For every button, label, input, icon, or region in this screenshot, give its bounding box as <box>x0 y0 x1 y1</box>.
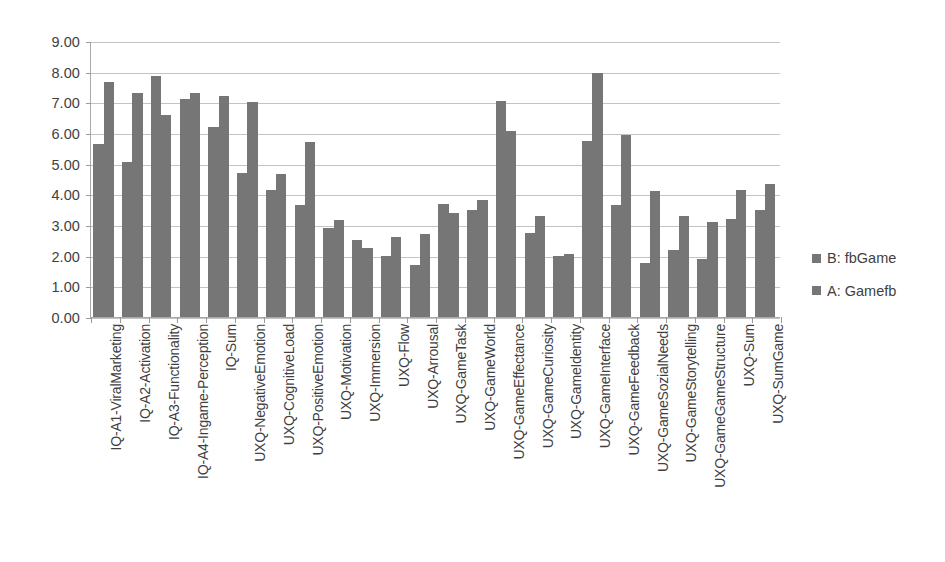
bar[interactable] <box>276 174 286 317</box>
bar[interactable] <box>449 213 459 317</box>
x-tick-mark <box>465 317 466 323</box>
bar[interactable] <box>237 173 247 317</box>
bar[interactable] <box>334 220 344 317</box>
bar[interactable] <box>93 144 103 317</box>
bar[interactable] <box>582 141 592 317</box>
bar-group <box>752 42 781 317</box>
x-tick-label: UXQ-GameStorytelling <box>684 324 698 462</box>
x-tick-label: UXQ-Arrousal <box>426 324 440 409</box>
bar[interactable] <box>592 73 602 317</box>
bar[interactable] <box>132 93 142 317</box>
x-tick-label: UXQ-Sum <box>742 324 756 386</box>
bar[interactable] <box>650 191 660 317</box>
bar[interactable] <box>352 240 362 317</box>
bar[interactable] <box>305 142 315 317</box>
bar[interactable] <box>726 219 736 317</box>
bar[interactable] <box>506 131 516 317</box>
bar[interactable] <box>553 256 563 317</box>
bar[interactable] <box>611 205 621 317</box>
bar-group <box>177 42 206 317</box>
bar[interactable] <box>219 96 229 317</box>
bar-group <box>292 42 321 317</box>
x-axis-labels: IQ-A1-ViralMarketingIQ-A2-ActivationIQ-A… <box>90 324 780 554</box>
x-tick-mark <box>292 317 293 323</box>
bar[interactable] <box>180 99 190 317</box>
bar[interactable] <box>362 248 372 317</box>
bar[interactable] <box>467 210 477 317</box>
bar-group <box>522 42 551 317</box>
bar[interactable] <box>420 234 430 317</box>
legend-item-b[interactable]: B: fbGame <box>812 251 937 266</box>
x-tick-label: UXQ-GameEffectance <box>512 324 526 459</box>
x-tick-label: UXQ-Flow <box>397 324 411 387</box>
bar[interactable] <box>765 184 775 317</box>
bar[interactable] <box>438 204 448 317</box>
x-tick-mark <box>551 317 552 323</box>
bar[interactable] <box>410 265 420 317</box>
x-tick-label: UXQ-NegativeEmotion <box>253 324 267 462</box>
plot-area <box>90 42 780 318</box>
bar[interactable] <box>381 256 391 317</box>
bar[interactable] <box>161 115 171 317</box>
bar[interactable] <box>323 228 333 317</box>
bar-group <box>724 42 753 317</box>
bar[interactable] <box>104 82 114 317</box>
bar[interactable] <box>477 200 487 317</box>
bar[interactable] <box>697 259 707 317</box>
bar[interactable] <box>564 254 574 317</box>
bar[interactable] <box>266 190 276 317</box>
bar[interactable] <box>640 263 650 317</box>
bar[interactable] <box>391 237 401 317</box>
bar[interactable] <box>679 216 689 317</box>
x-tick-mark <box>235 317 236 323</box>
bar[interactable] <box>247 102 257 317</box>
bar[interactable] <box>496 101 506 317</box>
bar[interactable] <box>122 162 132 317</box>
bar-group <box>264 42 293 317</box>
bar[interactable] <box>190 93 200 317</box>
bar[interactable] <box>535 216 545 317</box>
x-tick-mark <box>407 317 408 323</box>
x-tick-mark <box>206 317 207 323</box>
bar[interactable] <box>707 222 717 317</box>
x-tick-label: UXQ-PositiveEmotion <box>311 324 325 456</box>
legend-swatch-icon <box>812 286 821 295</box>
bar-group <box>235 42 264 317</box>
bar[interactable] <box>295 205 305 317</box>
x-tick-label: UXQ-Motivation <box>339 324 353 420</box>
x-tick-mark <box>580 317 581 323</box>
x-tick-label: UXQ-CognitiveLoad <box>282 324 296 445</box>
bar-group <box>580 42 609 317</box>
x-tick-mark <box>120 317 121 323</box>
x-tick-label: UXQ-GameGameStructure <box>713 324 727 488</box>
x-tick-mark <box>724 317 725 323</box>
x-tick-mark <box>149 317 150 323</box>
x-tick-label: UXQ-GameIdentity <box>569 324 583 439</box>
bar-group <box>407 42 436 317</box>
bar[interactable] <box>151 76 161 317</box>
x-tick-mark <box>781 317 782 323</box>
x-tick-label: IQ-A3-Functionality <box>167 324 181 440</box>
x-tick-mark <box>321 317 322 323</box>
bar[interactable] <box>208 127 218 317</box>
x-tick-label: IQ-Sum <box>224 324 238 371</box>
bar-group <box>609 42 638 317</box>
y-axis-labels: 9.008.007.006.005.004.003.002.001.000.00 <box>14 0 80 562</box>
bar-group <box>379 42 408 317</box>
x-tick-mark <box>695 317 696 323</box>
y-tick-label: 6.00 <box>20 127 80 142</box>
legend-item-a[interactable]: A: Gamefb <box>812 284 937 299</box>
y-tick-label: 3.00 <box>20 219 80 234</box>
bar[interactable] <box>668 250 678 317</box>
bar[interactable] <box>755 210 765 317</box>
x-tick-mark <box>522 317 523 323</box>
bar[interactable] <box>736 190 746 317</box>
bar[interactable] <box>621 135 631 317</box>
bar-group <box>551 42 580 317</box>
bar[interactable] <box>525 233 535 317</box>
y-tick-label: 4.00 <box>20 188 80 203</box>
y-tick-label: 5.00 <box>20 158 80 173</box>
legend-label: A: Gamefb <box>827 284 896 299</box>
y-tick-label: 2.00 <box>20 250 80 265</box>
x-tick-mark <box>752 317 753 323</box>
